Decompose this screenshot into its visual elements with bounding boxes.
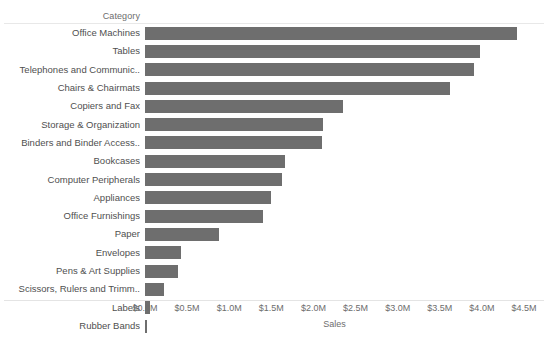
bar-track [145,152,548,170]
bar-chart-visualization: Category Office MachinesTablesTelephones… [0,0,548,347]
bar-row[interactable]: Chairs & Chairmats [0,79,548,97]
bar-row[interactable]: Storage & Organization [0,116,548,134]
bar[interactable] [144,264,179,279]
bar[interactable] [144,117,324,132]
bar-category-label[interactable]: Bookcases [0,152,140,170]
bar-track [145,134,548,152]
bar[interactable] [144,227,220,242]
bar-category-label[interactable]: Envelopes [0,244,140,262]
bar[interactable] [144,245,182,260]
bar-track [145,116,548,134]
bar-row[interactable]: Scissors, Rulers and Trimm.. [0,280,548,298]
bar-row[interactable]: Copiers and Fax [0,97,548,115]
bar-row[interactable]: Bookcases [0,152,548,170]
bar[interactable] [144,135,323,150]
bar[interactable] [144,209,264,224]
bar-category-label[interactable]: Appliances [0,189,140,207]
x-tick-label: $4.5M [511,302,536,314]
bar-track [145,97,548,115]
bar-category-label[interactable]: Paper [0,225,140,243]
bar-track [145,225,548,243]
x-tick-label: $1.0M [217,302,242,314]
category-axis-header[interactable]: Category [0,11,140,22]
bar-rows: Office MachinesTablesTelephones and Comm… [0,24,548,335]
bar-category-label[interactable]: Binders and Binder Access.. [0,134,140,152]
bar-category-label[interactable]: Computer Peripherals [0,171,140,189]
bar-row[interactable]: Office Furnishings [0,207,548,225]
x-tick-label: $0.0M [132,302,157,314]
bar[interactable] [144,44,481,59]
x-axis-title[interactable]: Sales [145,319,524,330]
bar-row[interactable]: Telephones and Communic.. [0,61,548,79]
x-tick-label: $0.5M [175,302,200,314]
bar-category-label[interactable]: Scissors, Rulers and Trimm.. [0,280,140,298]
bar-track [145,171,548,189]
bar-category-label[interactable]: Telephones and Communic.. [0,61,140,79]
x-axis-tick-labels: $0.0M$0.5M$1.0M$1.5M$2.0M$2.5M$3.0M$3.5M… [0,302,548,316]
bar-category-label[interactable]: Rubber Bands [0,317,140,335]
bar[interactable] [144,62,475,77]
bar-track [145,244,548,262]
bar-category-label[interactable]: Chairs & Chairmats [0,79,140,97]
x-tick-label: $2.0M [301,302,326,314]
bar-row[interactable]: Computer Peripherals [0,171,548,189]
plot-area: Office MachinesTablesTelephones and Comm… [0,24,548,301]
bar-row[interactable]: Tables [0,42,548,60]
bar[interactable] [144,99,344,114]
x-tick-label: $3.0M [385,302,410,314]
bar-row[interactable]: Envelopes [0,244,548,262]
bar[interactable] [144,172,283,187]
bar-row[interactable]: Paper [0,225,548,243]
bar-track [145,42,548,60]
x-tick-label: $1.5M [259,302,284,314]
bar-track [145,61,548,79]
bar[interactable] [144,26,518,41]
bar-category-label[interactable]: Office Machines [0,24,140,42]
bar-track [145,207,548,225]
bar-row[interactable]: Appliances [0,189,548,207]
bar-category-label[interactable]: Office Furnishings [0,207,140,225]
bar-category-label[interactable]: Storage & Organization [0,116,140,134]
bar-row[interactable]: Binders and Binder Access.. [0,134,548,152]
x-tick-label: $2.5M [343,302,368,314]
bar-track [145,280,548,298]
x-axis-line [4,300,544,301]
bar-track [145,262,548,280]
bar-category-label[interactable]: Pens & Art Supplies [0,262,140,280]
x-tick-label: $4.0M [469,302,494,314]
bar-row[interactable]: Office Machines [0,24,548,42]
bar-row[interactable]: Pens & Art Supplies [0,262,548,280]
bar[interactable] [144,282,165,297]
bar[interactable] [144,190,272,205]
bar-category-label[interactable]: Tables [0,42,140,60]
x-tick-label: $3.5M [427,302,452,314]
bar-category-label[interactable]: Copiers and Fax [0,97,140,115]
bar-track [145,189,548,207]
bar-track [145,79,548,97]
bar-track [145,24,548,42]
bar[interactable] [144,81,451,96]
bar[interactable] [144,154,286,169]
